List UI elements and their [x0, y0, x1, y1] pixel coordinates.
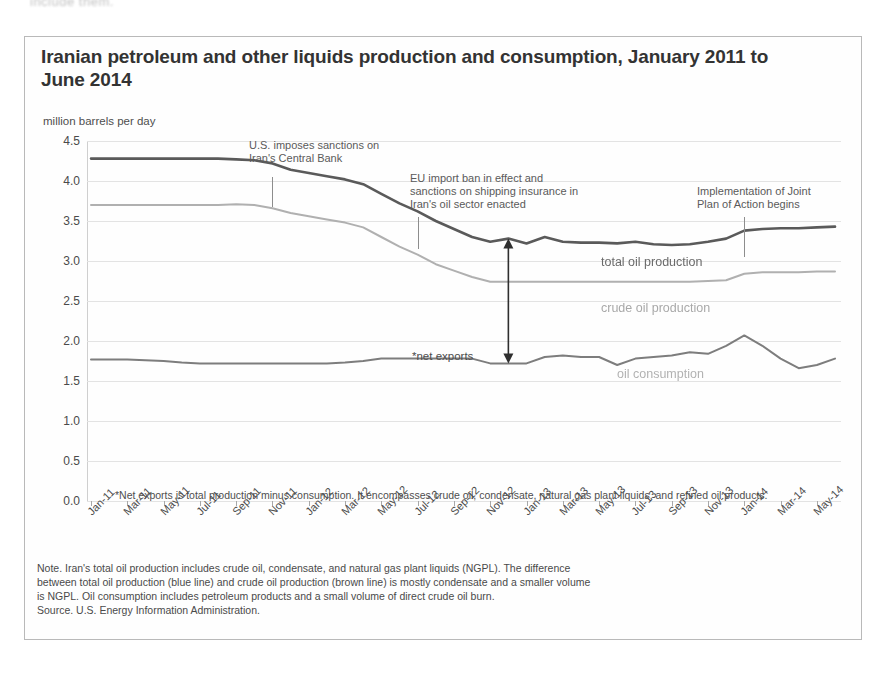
annotation-leader-us-sanctions [272, 177, 273, 207]
series-label-crude-oil-production: crude oil production [601, 301, 710, 315]
annotation-joint-plan-of-action: Implementation of Joint Plan of Action b… [697, 185, 811, 211]
note-line-1: Note. Iran's total oil production includ… [37, 561, 849, 575]
y-axis-tick-label: 4.5 [63, 134, 80, 148]
y-axis-tick-label: 1.0 [63, 414, 80, 428]
y-axis-unit-label: million barrels per day [43, 115, 156, 127]
y-axis-tick-label: 2.5 [63, 294, 80, 308]
net-exports-arrow [503, 239, 513, 364]
y-axis-tick-label: 3.0 [63, 254, 80, 268]
series-line-crude-oil-production [91, 204, 835, 282]
series-label-oil-consumption: oil consumption [617, 367, 704, 381]
series-label-total-oil-production: total oil production [601, 255, 702, 269]
y-axis-tick-label: 1.5 [63, 374, 80, 388]
y-axis-tick-label: 2.0 [63, 334, 80, 348]
note-line-3: is NGPL. Oil consumption includes petrol… [37, 589, 849, 603]
scan-artifact-text: include them. [30, 0, 210, 10]
chart-footnote: *Net exports is total production minus c… [115, 489, 855, 502]
chart-title: Iranian petroleum and other liquids prod… [41, 45, 801, 91]
annotation-leader-joint-plan-of-action [744, 217, 745, 257]
y-axis-tick-label: 3.5 [63, 214, 80, 228]
annotation-us-sanctions: U.S. imposes sanctions on Iran's Central… [249, 139, 379, 165]
y-axis-tick-label: 4.0 [63, 174, 80, 188]
chart-source: Source. U.S. Energy Information Administ… [37, 603, 849, 617]
annotation-leader-eu-import-ban [418, 217, 419, 249]
chart-figure: Iranian petroleum and other liquids prod… [24, 36, 862, 640]
net-exports-label: *net exports [412, 350, 473, 362]
annotation-eu-import-ban: EU import ban in effect and sanctions on… [410, 172, 578, 211]
y-axis-tick-label: 0.0 [63, 494, 80, 508]
y-axis-tick-label: 0.5 [63, 454, 80, 468]
note-line-2: between total oil production (blue line)… [37, 575, 849, 589]
chart-note-block: Note. Iran's total oil production includ… [37, 561, 849, 617]
net-exports-arrow-head-down [503, 353, 513, 363]
